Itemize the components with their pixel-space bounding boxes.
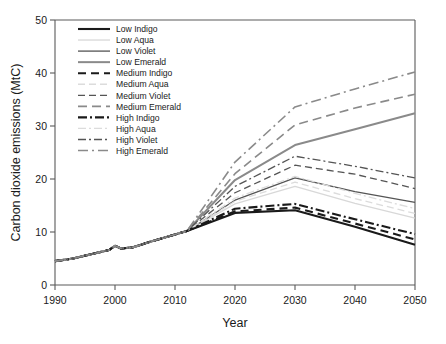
series-line xyxy=(55,72,415,261)
legend-label: High Emerald xyxy=(116,146,168,156)
y-tick-label: 30 xyxy=(35,120,47,132)
series-line xyxy=(55,178,415,261)
x-tick-label: 2050 xyxy=(403,294,427,306)
legend-label: Medium Indigo xyxy=(116,68,173,78)
x-tick-label: 2000 xyxy=(103,294,127,306)
legend-label: High Violet xyxy=(116,135,158,145)
y-axis-title: Carbon dioxide emissions (MtC) xyxy=(9,64,23,242)
axis-group: 010203040501990200020102020203020402050 xyxy=(35,14,427,306)
x-axis-title: Year xyxy=(222,316,247,330)
y-tick-label: 10 xyxy=(35,226,47,238)
series-group xyxy=(55,72,415,261)
legend-label: High Indigo xyxy=(116,113,160,123)
x-tick-label: 1990 xyxy=(43,294,67,306)
series-line xyxy=(55,176,415,261)
series-line xyxy=(55,94,415,261)
legend-label: High Aqua xyxy=(116,124,156,134)
legend-label: Medium Violet xyxy=(116,91,171,101)
y-tick-label: 0 xyxy=(41,279,47,291)
y-tick-label: 40 xyxy=(35,67,47,79)
legend-label: Medium Emerald xyxy=(116,102,181,112)
legend-label: Medium Aqua xyxy=(116,79,169,89)
y-tick-label: 50 xyxy=(35,14,47,26)
x-tick-label: 2040 xyxy=(343,294,367,306)
chart-legend: Low IndigoLow AquaLow VioletLow EmeraldM… xyxy=(78,24,181,156)
legend-label: Low Emerald xyxy=(116,57,166,67)
legend-label: Low Violet xyxy=(116,46,156,56)
series-line xyxy=(55,210,415,261)
series-line xyxy=(55,208,415,262)
x-tick-label: 2010 xyxy=(163,294,187,306)
legend-label: Low Indigo xyxy=(116,24,158,34)
chart-canvas: 010203040501990200020102020203020402050 … xyxy=(0,0,446,344)
y-tick-label: 20 xyxy=(35,173,47,185)
x-tick-label: 2020 xyxy=(223,294,247,306)
series-line xyxy=(55,113,415,261)
x-tick-label: 2030 xyxy=(283,294,307,306)
legend-label: Low Aqua xyxy=(116,35,154,45)
co2-emissions-chart: 010203040501990200020102020203020402050 … xyxy=(0,0,446,344)
